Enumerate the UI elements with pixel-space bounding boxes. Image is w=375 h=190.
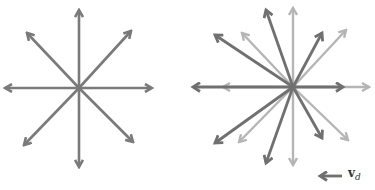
velocity-arrow	[79, 31, 131, 88]
velocity-arrow	[24, 88, 79, 145]
velocity-diagram	[0, 0, 375, 190]
velocity-arrow	[27, 33, 79, 88]
velocity-arrow	[293, 87, 322, 138]
velocity-arrow	[215, 35, 293, 87]
velocity-arrow	[215, 87, 293, 143]
drift-velocity-label: vd	[348, 166, 361, 182]
velocity-arrow	[266, 10, 293, 87]
isotropic-velocity-star	[5, 10, 152, 167]
velocity-arrow	[79, 88, 133, 142]
velocity-arrow	[239, 87, 293, 142]
drifted-velocity-star	[193, 10, 343, 163]
velocity-arrow	[242, 33, 293, 87]
velocity-arrow	[293, 87, 348, 140]
